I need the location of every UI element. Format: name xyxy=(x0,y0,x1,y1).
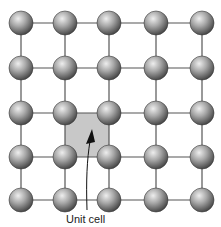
atom-sphere xyxy=(190,101,214,125)
atom-sphere xyxy=(9,145,33,169)
atom-sphere xyxy=(144,11,168,35)
atom-sphere xyxy=(190,188,214,212)
atom-sphere xyxy=(144,101,168,125)
atom-sphere xyxy=(190,145,214,169)
atom-sphere xyxy=(97,188,121,212)
atom-sphere xyxy=(9,101,33,125)
square-lattice-diagram: Unit cell xyxy=(0,0,221,227)
atom-sphere xyxy=(97,101,121,125)
lattice-atoms xyxy=(9,11,214,212)
atom-sphere xyxy=(190,11,214,35)
atom-sphere xyxy=(144,188,168,212)
unit-cell-arrow xyxy=(86,129,95,210)
atom-sphere xyxy=(53,188,77,212)
atom-sphere xyxy=(190,56,214,80)
atom-sphere xyxy=(97,11,121,35)
atom-sphere xyxy=(144,56,168,80)
atom-sphere xyxy=(53,101,77,125)
atom-sphere xyxy=(97,56,121,80)
atom-sphere xyxy=(144,145,168,169)
atom-sphere xyxy=(9,188,33,212)
atom-sphere xyxy=(9,11,33,35)
unit-cell-label: Unit cell xyxy=(66,213,105,225)
atom-sphere xyxy=(53,56,77,80)
atom-sphere xyxy=(97,145,121,169)
atom-sphere xyxy=(53,145,77,169)
atom-sphere xyxy=(53,11,77,35)
atom-sphere xyxy=(9,56,33,80)
